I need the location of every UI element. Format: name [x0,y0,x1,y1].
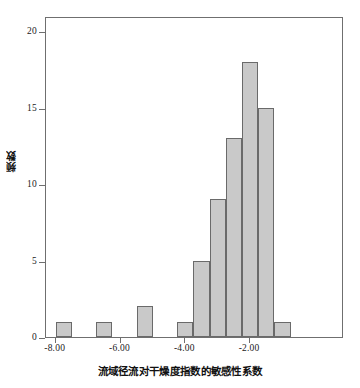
histogram-bar [96,322,112,337]
histogram-bar [177,322,193,337]
x-axis-tick-label: -2.00 [224,344,274,354]
y-axis-title: 频数 [4,150,20,172]
x-axis-tick-label: -4.00 [159,344,209,354]
y-axis-tick-label: 5 [7,257,37,267]
histogram-bar [193,261,209,337]
x-axis-tick-label: -6.00 [95,344,145,354]
x-axis-title: 流域径流对干燥度指数的敏感性系数 [0,363,360,378]
histogram-bar [274,322,290,337]
histogram-bar [137,306,153,337]
histogram-bar [258,108,274,337]
bars-layer [46,18,342,337]
histogram-figure: 频数 05101520 -8.00-6.00-4.00-2.00 流域径流对干燥… [0,0,360,388]
histogram-bar [226,138,242,337]
y-axis-tick-label: 0 [7,333,37,343]
histogram-bar [210,199,226,337]
y-axis-tick [39,338,45,339]
y-axis-tick-label: 15 [7,104,37,114]
x-axis-tick-label: -8.00 [30,344,80,354]
histogram-bar [56,322,72,337]
y-axis-tick-label: 10 [7,180,37,190]
plot-area [45,17,343,338]
histogram-bar [242,62,258,337]
y-axis-tick-label: 20 [7,27,37,37]
